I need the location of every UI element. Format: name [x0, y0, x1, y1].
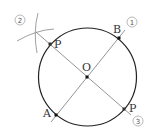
point-o [86, 76, 89, 79]
point-p-upper [49, 43, 52, 46]
label-o: O [82, 61, 91, 74]
step-marker-3: 3 [133, 116, 143, 126]
step-marker-2: 2 [15, 15, 25, 25]
geometry-diagram: O B A P P 1 2 3 [0, 0, 153, 134]
label-b: B [113, 23, 121, 36]
step-marker-1: 1 [127, 17, 137, 27]
label-p-upper: P [54, 38, 62, 51]
point-b [118, 37, 121, 40]
label-p-lower: P [129, 102, 137, 115]
label-a: A [42, 107, 52, 120]
svg-text:2: 2 [18, 17, 22, 25]
point-p-lower [123, 108, 126, 111]
svg-text:3: 3 [136, 118, 140, 126]
point-a [55, 114, 58, 117]
svg-text:1: 1 [130, 19, 134, 27]
